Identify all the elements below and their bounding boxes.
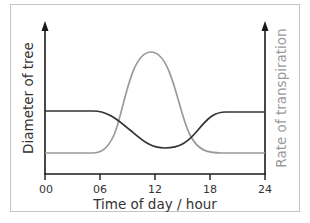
x-tick-label-06: 06 bbox=[93, 183, 107, 196]
x-tick-label-24: 24 bbox=[258, 183, 272, 196]
x-tick-label-00: 00 bbox=[39, 183, 53, 196]
chart-canvas: 00 06 12 18 24 Time of day / hour Diamet… bbox=[0, 0, 310, 223]
left-axis-title: Diameter of tree bbox=[20, 42, 36, 154]
transpiration-series-line bbox=[45, 52, 265, 153]
left-axis-arrow-icon bbox=[42, 21, 49, 31]
diameter-series-line bbox=[45, 111, 265, 148]
right-axis-title: Rate of transpiration bbox=[273, 28, 289, 167]
x-tick-label-12: 12 bbox=[148, 183, 162, 196]
x-tick-label-18: 18 bbox=[203, 183, 217, 196]
axes bbox=[42, 21, 269, 180]
x-axis-title: Time of day / hour bbox=[92, 196, 217, 212]
right-axis-arrow-icon bbox=[262, 21, 269, 31]
